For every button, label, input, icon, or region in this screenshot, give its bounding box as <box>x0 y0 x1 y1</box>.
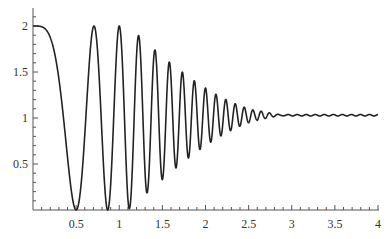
x-tick-label: 0.5 <box>69 217 84 231</box>
data-line <box>33 26 378 210</box>
y-tick-label: 1 <box>22 111 28 125</box>
x-tick-label: 1.5 <box>155 217 170 231</box>
y-tick-label: 2 <box>22 19 28 33</box>
x-tick-label: 2.5 <box>241 217 256 231</box>
x-axis-ticks: 0.511.522.533.54 <box>42 205 381 231</box>
axes <box>33 8 379 210</box>
x-tick-label: 2 <box>203 217 209 231</box>
x-tick-label: 3 <box>289 217 295 231</box>
x-tick-label: 1 <box>116 217 122 231</box>
y-axis-ticks: 0.511.52 <box>13 17 38 201</box>
y-tick-label: 1.5 <box>13 65 28 79</box>
y-tick-label: 0.5 <box>13 157 28 171</box>
line-chart: 0.511.522.533.54 0.511.52 <box>0 0 388 239</box>
x-tick-label: 3.5 <box>327 217 342 231</box>
x-tick-label: 4 <box>375 217 381 231</box>
